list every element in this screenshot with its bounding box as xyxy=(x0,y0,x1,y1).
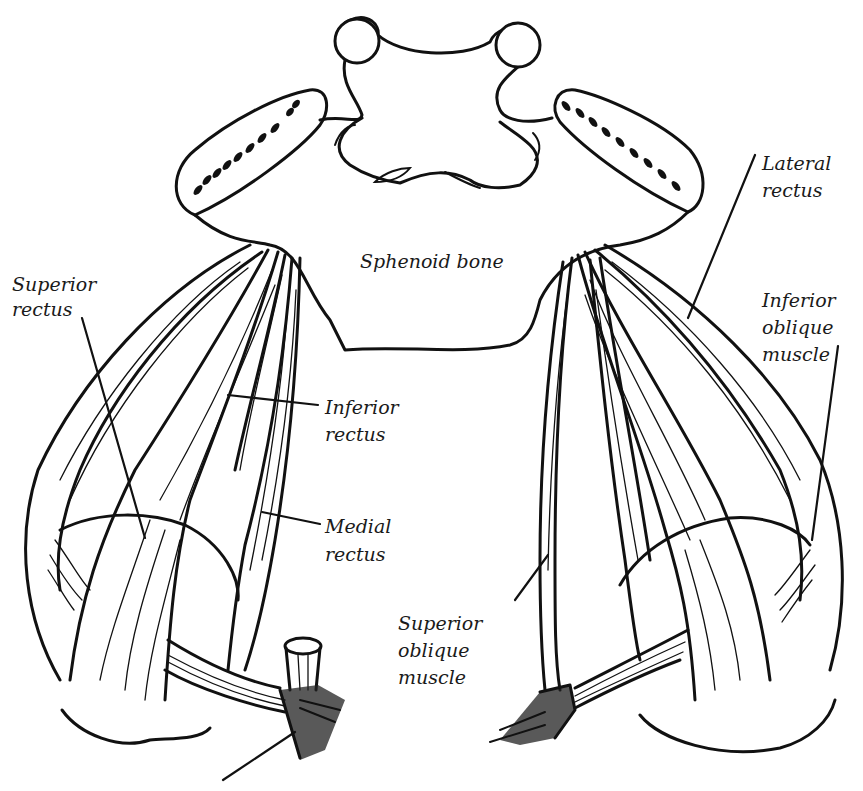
left-anterior-clinoid xyxy=(335,19,379,63)
left-lesser-wing xyxy=(176,90,326,215)
extraocular-muscles-diagram: Sphenoid bone Superior rectus Inferior r… xyxy=(0,0,863,791)
label-superior-oblique-muscle: Superior oblique muscle xyxy=(398,612,488,688)
label-lateral-rectus: Lateral rectus xyxy=(761,152,837,201)
leader-superior-rectus xyxy=(82,318,145,538)
label-inferior-rectus: Inferior rectus xyxy=(324,396,405,445)
leader-medial-rectus xyxy=(262,512,320,524)
right-anterior-clinoid xyxy=(496,23,540,67)
left-eye xyxy=(26,245,345,760)
label-inferior-oblique-muscle: Inferior oblique muscle xyxy=(761,289,842,365)
label-sphenoid-bone: Sphenoid bone xyxy=(360,250,504,272)
leader-trochlea xyxy=(223,732,295,780)
left-trochlea xyxy=(280,638,345,760)
label-superior-rectus: Superior rectus xyxy=(12,273,102,320)
label-medial-rectus: Medial rectus xyxy=(324,515,397,565)
leader-superior-oblique xyxy=(515,555,548,600)
sphenoid-bone xyxy=(176,18,703,350)
leader-inferior-rectus xyxy=(228,395,318,405)
right-trochlea xyxy=(490,685,575,745)
